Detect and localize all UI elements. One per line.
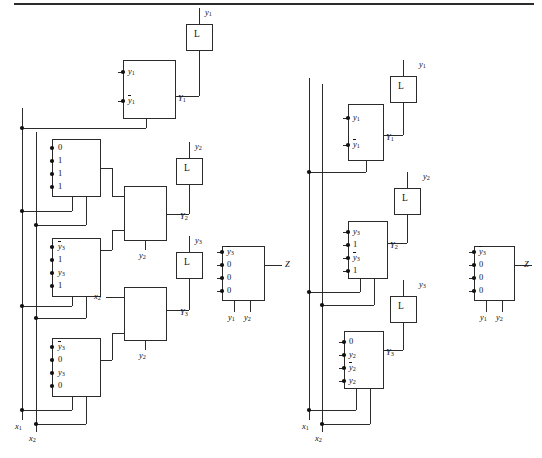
figure-canvas: L y1 Y1 y1 y1 0 1 1 1 y3 1 y3 1 y3 0 y3 … [0,0,542,458]
latch-out-left-y1: y1 [205,8,212,17]
mux-input-left-a-2: 1 [58,169,62,178]
mux-input-left-a-3: 1 [58,182,62,191]
mux-input-right-Y3-0: 0 [349,337,353,346]
mux-input-right-Y2-2: y3 [353,253,360,262]
mux-input-right-Z-2: 0 [479,273,483,282]
latch-body-left-y1: L [194,30,200,40]
input-label-right-x1: x1 [302,422,309,431]
latch-body-right-y3: L [398,302,404,312]
mux-input-left-b-0: y3 [58,242,65,251]
mux-input-left-c-3: 0 [58,381,62,390]
mux-input-right-Y3-2: y2 [349,363,356,372]
mux-input-left-Y1-1: y1 [128,96,135,105]
mux-input-right-Y3-3: y2 [349,376,356,385]
latch-out-right-y2: y2 [423,172,430,181]
mux-input-left-b-2: y3 [58,268,65,277]
mux-out-right-Y3: Y3 [386,348,394,357]
mux-input-right-Y1-0: y1 [353,113,360,122]
mux-out-left-Z: Z [285,260,290,269]
mux-out-left-Y3: Y3 [180,308,188,317]
mux-input-right-Y2-0: y3 [353,227,360,236]
mux-select-left-Y2: y2 [139,251,146,260]
input-label-left-x1: x1 [15,422,22,431]
mux-input-left-c-0: y3 [58,342,65,351]
mux-select-left-Y3: y2 [139,351,146,360]
mux-select-left-Z-1: y2 [244,313,251,322]
latch-out-right-y3: y3 [419,280,426,289]
junction-dots [20,70,476,426]
mux-input-left-a-1: 1 [58,156,62,165]
mux-input-right-Z-3: 0 [479,286,483,295]
mux-input-left-a-0: 0 [58,143,62,152]
circuit-wiring [0,0,542,458]
mux-input-right-Z-0: y3 [479,247,486,256]
mux-input-left-b-3: 1 [58,281,62,290]
latch-body-right-y2: L [402,194,408,204]
mux-select-right-Z-0: y1 [480,313,487,322]
mux-out-right-Z: Z [524,260,529,269]
latch-body-right-y1: L [398,82,404,92]
mux-input-left-b-1: 1 [58,255,62,264]
mux-out-right-Y2: Y2 [390,241,398,250]
mux-input-right-Y2-1: 1 [353,240,357,249]
input-label-left-x2: x2 [29,434,36,443]
mux-input-left-c-1: 0 [58,355,62,364]
latch-body-left-y3: L [184,258,190,268]
latch-out-left-y2: y2 [195,142,202,151]
mux-input-left-Y1-0: y1 [128,67,135,76]
mux-select-left-Z-0: y1 [228,313,235,322]
mux-input-left-c-2: y3 [58,368,65,377]
mux-out-right-Y1: Y1 [386,133,394,142]
mux-out-left-Y2: Y2 [180,212,188,221]
input-label-right-x2: x2 [315,434,322,443]
mux-input-left-Z-1: 0 [227,260,231,269]
mux-input-right-Y1-1: y1 [353,140,360,149]
latch-out-left-y3: y3 [195,236,202,245]
mux-input-left-Z-3: 0 [227,286,231,295]
mux-input-right-Y3-1: y2 [349,350,356,359]
mux-input-left-Z-0: y3 [227,247,234,256]
latch-body-left-y2: L [184,164,190,174]
mux-select-right-Z-1: y2 [496,313,503,322]
mux-input-left-Z-2: 0 [227,273,231,282]
mux-input-right-Z-1: 0 [479,260,483,269]
mux-out-left-Y1: Y1 [178,94,186,103]
mux-input-left-Y3-x2: x2 [94,292,101,301]
mux-input-right-Y2-3: 1 [353,266,357,275]
latch-out-right-y1: y1 [419,60,426,69]
